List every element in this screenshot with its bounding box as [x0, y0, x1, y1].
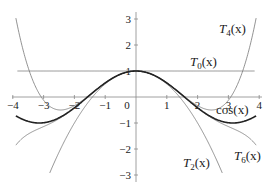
- svg-text:−4: −4: [7, 99, 19, 111]
- svg-text:4: 4: [256, 99, 262, 111]
- label-t4: T4(x): [219, 21, 246, 38]
- svg-text:2: 2: [126, 39, 132, 51]
- label-cos: cos(x): [216, 102, 249, 117]
- svg-text:3: 3: [126, 13, 132, 25]
- svg-text:1: 1: [164, 99, 170, 111]
- svg-text:−3: −3: [119, 169, 131, 181]
- label-t0: T0(x): [190, 54, 217, 71]
- label-t6: T6(x): [234, 148, 261, 165]
- chart-canvas: −4−3−2−101234 321−1−2−3 T4(x) T0(x) cos(…: [0, 0, 272, 188]
- svg-text:−2: −2: [119, 143, 131, 155]
- svg-text:−1: −1: [99, 99, 111, 111]
- taylor-cos-chart: −4−3−2−101234 321−1−2−3 T4(x) T0(x) cos(…: [0, 0, 272, 188]
- svg-text:0: 0: [124, 99, 130, 111]
- label-t2: T2(x): [183, 155, 210, 172]
- svg-text:−1: −1: [119, 117, 131, 129]
